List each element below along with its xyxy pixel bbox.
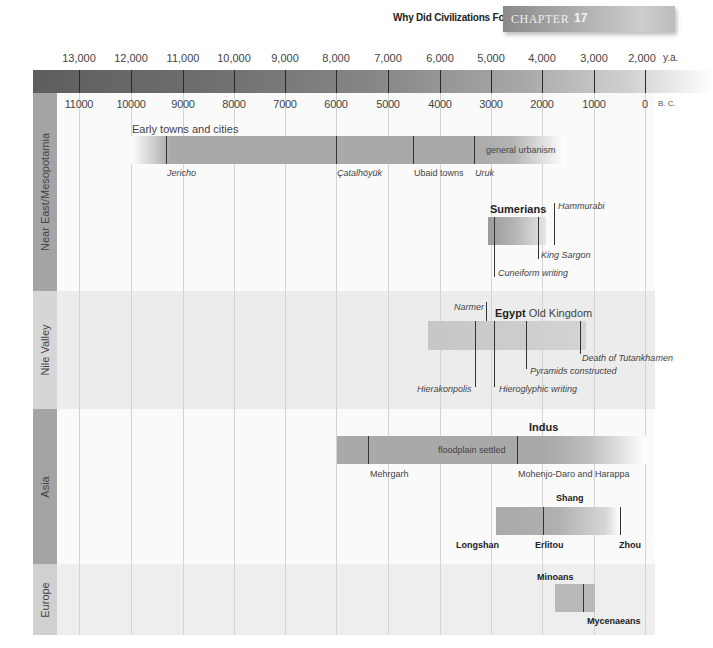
- label-longshan: Longshan: [456, 540, 499, 550]
- axis-unit-ya: y.a.: [663, 52, 678, 63]
- region-label: Near East/Mesopotamia: [39, 133, 51, 251]
- chapter-badge: CHAPTER 17: [503, 6, 675, 32]
- axis-tick-label: 4000: [428, 98, 451, 110]
- label-floodplain: floodplain settled: [438, 445, 506, 455]
- bar-shang: [496, 507, 620, 535]
- label-death-tut: Death of Tutankhamen: [582, 353, 673, 363]
- axis-tick-label: 6000: [324, 98, 347, 110]
- region-label: Asia: [39, 476, 51, 497]
- axis-tick-label: 2,000: [628, 52, 656, 64]
- axis-tick-label: 13,000: [62, 52, 96, 64]
- marker-pyramids: [526, 321, 527, 369]
- axis-tick-label: 8000: [222, 98, 245, 110]
- label-egypt: Egypt: [495, 307, 526, 319]
- marker-mohenjo-daro: [517, 436, 518, 464]
- band-tick: [79, 70, 80, 93]
- axis-tick-label: 5,000: [477, 52, 505, 64]
- label-catalhoyuk: Çatalhöyük: [337, 168, 382, 178]
- period-label-indus: Indus: [529, 421, 558, 433]
- marker-hierakonpolis: [475, 321, 476, 387]
- region-asia: Asia: [33, 409, 57, 564]
- axis-tick-label: 1000: [582, 98, 605, 110]
- axis-tick-label: 3,000: [580, 52, 608, 64]
- timeline-band: [33, 70, 713, 93]
- marker-mehrgarh: [368, 436, 369, 464]
- label-cuneiform: Cuneiform writing: [498, 268, 568, 278]
- label-erlitou: Erlitou: [535, 540, 564, 550]
- band-tick: [285, 70, 286, 93]
- band-tick: [645, 70, 646, 93]
- period-label-shang: Shang: [556, 493, 584, 503]
- band-tick: [440, 70, 441, 93]
- marker-cuneiform: [494, 217, 495, 277]
- label-uruk: Uruk: [475, 168, 494, 178]
- label-hieroglyphic: Hieroglyphic writing: [499, 384, 577, 394]
- marker-zhou: [620, 507, 621, 535]
- region-label: Europe: [39, 582, 51, 617]
- marker-catalhoyuk: [336, 136, 337, 164]
- band-tick: [594, 70, 595, 93]
- marker-king-sargon: [538, 217, 539, 259]
- band-tick: [234, 70, 235, 93]
- axis-tick-label: 0: [642, 98, 648, 110]
- axis-tick-label: 9,000: [271, 52, 299, 64]
- axis-tick-label: 10,000: [217, 52, 251, 64]
- chapter-number: 17: [574, 11, 587, 25]
- marker-hammurabi: [554, 203, 555, 245]
- region-label: Nile Valley: [39, 324, 51, 375]
- axis-tick-label: 4,000: [528, 52, 556, 64]
- chapter-word: CHAPTER: [511, 12, 569, 27]
- axis-tick-label: 11000: [65, 98, 93, 110]
- region-bg-asia: [57, 409, 655, 564]
- band-tick: [491, 70, 492, 93]
- label-mycenaeans: Mycenaeans: [587, 616, 641, 626]
- label-mohenjo-daro: Mohenjo-Daro and Harappa: [518, 469, 630, 479]
- axis-tick-label: 7000: [273, 98, 296, 110]
- region-near-east: Near East/Mesopotamia: [33, 93, 57, 291]
- axis-tick-label: 8,000: [322, 52, 350, 64]
- axis-tick-label: 2000: [530, 98, 553, 110]
- marker-mycenaeans: [583, 584, 584, 612]
- axis-tick-label: 11,000: [167, 52, 200, 64]
- axis-tick-label: 7,000: [374, 52, 402, 64]
- label-old-kingdom: Old Kingdom: [529, 307, 593, 319]
- bar-minoans: [555, 584, 595, 612]
- axis-tick-label: 10000: [116, 98, 145, 110]
- band-tick: [542, 70, 543, 93]
- period-label-sumerians: Sumerians: [490, 203, 546, 215]
- bar-egypt: [428, 321, 586, 350]
- marker-jericho: [166, 136, 167, 164]
- band-tick: [336, 70, 337, 93]
- axis-tick-label: 3000: [479, 98, 502, 110]
- label-jericho: Jericho: [167, 168, 196, 178]
- band-tick: [131, 70, 132, 93]
- marker-erlitou: [543, 507, 544, 535]
- label-hammurabi: Hammurabi: [558, 201, 605, 211]
- label-hierakonpolis: Hierakonpolis: [417, 384, 472, 394]
- label-mehrgarh: Mehrgarh: [370, 469, 409, 479]
- label-general-urbanism: general urbanism: [486, 145, 556, 155]
- axis-unit-bc: B. C.: [658, 99, 676, 108]
- label-ubaid: Ubaid towns: [414, 168, 464, 178]
- marker-uruk: [474, 136, 475, 164]
- label-pyramids: Pyramids constructed: [530, 366, 617, 376]
- period-label-minoans: Minoans: [537, 572, 574, 582]
- period-label-early-towns: Early towns and cities: [132, 123, 238, 135]
- marker-death-tut: [580, 321, 581, 354]
- region-nile-valley: Nile Valley: [33, 291, 57, 409]
- marker-hieroglyphic: [494, 321, 495, 387]
- label-narmer: Narmer: [454, 302, 484, 312]
- band-tick: [183, 70, 184, 93]
- marker-ubaid: [413, 136, 414, 164]
- axis-tick-label: 12,000: [114, 52, 148, 64]
- axis-tick-label: 9000: [171, 98, 194, 110]
- label-zhou: Zhou: [619, 540, 641, 550]
- axis-tick-label: 5000: [376, 98, 399, 110]
- region-europe: Europe: [33, 564, 57, 635]
- label-king-sargon: King Sargon: [541, 250, 591, 260]
- period-label-egypt: Egypt Old Kingdom: [495, 307, 592, 319]
- band-tick: [388, 70, 389, 93]
- axis-tick-label: 6,000: [426, 52, 454, 64]
